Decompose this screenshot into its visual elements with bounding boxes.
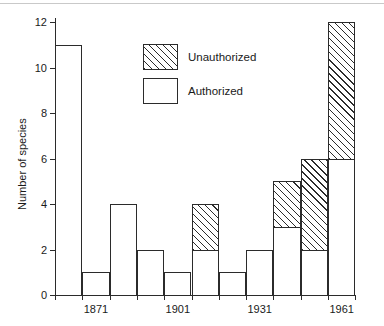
bar-1911 [164,272,191,295]
x-tick-label-1961: 1961 [322,303,362,315]
y-tick-label-2: 2 [0,245,47,256]
bar-segment-unauthorized [301,159,328,251]
y-tick-label-12: 12 [0,17,47,28]
bar-segment-authorized [137,250,164,297]
legend-swatch-authorized-icon [143,78,178,104]
x-tick-label-1931: 1931 [240,303,280,315]
y-tick-label-10: 10 [0,63,47,74]
legend-swatch-unauthorized-icon [143,44,178,70]
bar-segment-authorized [219,272,246,296]
bar-segment-authorized [55,45,82,296]
species-histogram-chart: Number of species 024681012 187119011931… [0,0,384,326]
legend-label-unauthorized: Unauthorized [188,51,256,63]
y-tick-12 [50,22,55,23]
bar-1881 [82,272,109,295]
y-tick-label-8: 8 [0,108,47,119]
x-tick-label-1901: 1901 [158,303,198,315]
bar-segment-unauthorized [328,22,355,160]
bar-segment-authorized [192,250,219,297]
bar-1901 [137,250,164,296]
bar-1971 [328,22,355,295]
bar-segment-unauthorized [192,204,219,251]
bar-1941 [246,250,273,296]
y-tick-label-4: 4 [0,199,47,210]
bar-1871 [55,45,82,295]
bar-segment-authorized [273,227,300,296]
bar-segment-unauthorized [273,181,300,228]
bar-segment-authorized [110,204,137,296]
bar-segment-authorized [164,272,191,296]
bar-segment-authorized [246,250,273,297]
bar-segment-authorized [301,250,328,297]
bar-segment-authorized [328,159,355,297]
bar-1891 [110,204,137,295]
bar-1951 [273,181,300,295]
bar-segment-authorized [82,272,109,296]
legend-label-authorized: Authorized [188,85,243,97]
x-tick-11 [355,295,356,300]
bar-1961 [301,159,328,296]
bar-1921 [192,204,219,295]
page-top-rule [0,3,384,4]
bar-1931 [219,272,246,295]
y-tick-label-0: 0 [0,290,47,301]
x-tick-label-1871: 1871 [76,303,116,315]
y-tick-label-6: 6 [0,154,47,165]
